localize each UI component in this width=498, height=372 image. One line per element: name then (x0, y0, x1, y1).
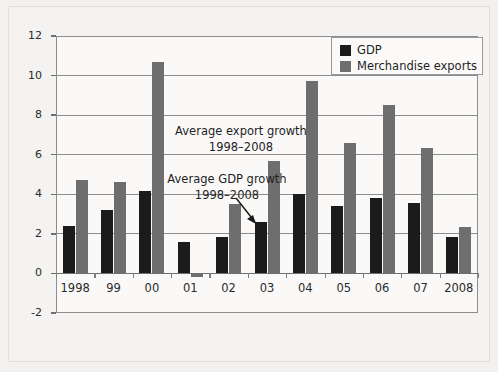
x-tick-mark-05 (325, 273, 326, 278)
x-tick-label-07: 07 (400, 283, 440, 295)
legend-swatch-gdp (340, 45, 351, 56)
legend-item-merchandise-exports: Merchandise exports (340, 59, 482, 74)
y-tick-mark--2 (51, 312, 56, 313)
bar-exports-04 (306, 81, 318, 274)
bar-exports-06 (383, 105, 395, 273)
annotation-export-line2: 1998–2008 (166, 140, 316, 156)
y-tick-label-8: 8 (8, 109, 42, 120)
bar-gdp-2008 (446, 237, 458, 274)
y-tick-mark-10 (51, 75, 56, 76)
y-tick-label-12: 12 (8, 30, 42, 41)
x-tick-label-00: 00 (132, 283, 172, 295)
bar-gdp-1998 (63, 226, 75, 273)
y-tick-mark-4 (51, 194, 56, 195)
bar-gdp-07 (408, 203, 420, 273)
x-tick-mark-2008 (440, 273, 441, 278)
x-tick-mark-00 (133, 273, 134, 278)
x-tick-label-04: 04 (285, 283, 325, 295)
x-tick-mark-99 (94, 273, 95, 278)
x-tick-label-99: 99 (94, 283, 134, 295)
legend-label-merchandise-exports: Merchandise exports (357, 61, 477, 73)
x-tick-mark-04 (286, 273, 287, 278)
y-tick-label-0: 0 (8, 267, 42, 278)
bar-exports-05 (344, 143, 356, 274)
annotation-arrow-icon (234, 196, 264, 228)
annotation-gdp-line2: 1998–2008 (152, 188, 302, 204)
y-tick-label-2: 2 (8, 228, 42, 239)
x-tick-mark-03 (248, 273, 249, 278)
bar-exports-00 (152, 62, 164, 274)
chart-container: 121086420-2 19989900010203040506072008 G… (0, 0, 498, 372)
y-tick-mark-8 (51, 114, 56, 115)
legend: GDP Merchandise exports (331, 37, 483, 75)
bar-gdp-02 (216, 237, 228, 274)
bar-exports-07 (421, 148, 433, 274)
y-tick-mark-2 (51, 233, 56, 234)
x-tick-mark-07 (401, 273, 402, 278)
gridline-8 (56, 115, 478, 116)
x-tick-label-02: 02 (209, 283, 249, 295)
x-tick-label-03: 03 (247, 283, 287, 295)
y-tick-mark-6 (51, 154, 56, 155)
y-tick-label-10: 10 (8, 70, 42, 81)
y-tick-mark-12 (51, 35, 56, 36)
bar-gdp-99 (101, 210, 113, 273)
x-tick-label-2008: 2008 (439, 283, 479, 295)
bar-gdp-05 (331, 206, 343, 273)
legend-item-gdp: GDP (340, 43, 482, 58)
legend-swatch-merchandise-exports (340, 61, 351, 72)
y-tick-label--2: -2 (8, 307, 42, 318)
bar-exports-1998 (76, 180, 88, 273)
annotation-gdp-line1: Average GDP growth (152, 172, 302, 188)
gridline-10 (56, 75, 478, 76)
annotation-average-export-growth: Average export growth 1998–2008 (166, 124, 316, 155)
x-tick-mark-01 (171, 273, 172, 278)
x-tick-label-06: 06 (362, 283, 402, 295)
x-tick-mark-end (478, 273, 479, 278)
bar-gdp-03 (255, 222, 267, 273)
x-tick-mark-06 (363, 273, 364, 278)
x-tick-label-05: 05 (324, 283, 364, 295)
bar-gdp-01 (178, 242, 190, 274)
annotation-export-line1: Average export growth (166, 124, 316, 140)
bar-exports-01 (191, 273, 203, 277)
legend-label-gdp: GDP (357, 45, 382, 57)
bar-exports-2008 (459, 227, 471, 273)
y-tick-label-4: 4 (8, 188, 42, 199)
x-tick-label-1998: 1998 (55, 283, 95, 295)
x-tick-mark-1998 (56, 273, 57, 278)
bar-gdp-06 (370, 198, 382, 273)
annotation-average-gdp-growth: Average GDP growth 1998–2008 (152, 172, 302, 203)
bar-gdp-00 (139, 191, 151, 273)
x-tick-mark-02 (209, 273, 210, 278)
x-tick-label-01: 01 (170, 283, 210, 295)
bar-exports-99 (114, 182, 126, 273)
bar-gdp-04 (293, 194, 305, 273)
y-tick-label-6: 6 (8, 149, 42, 160)
